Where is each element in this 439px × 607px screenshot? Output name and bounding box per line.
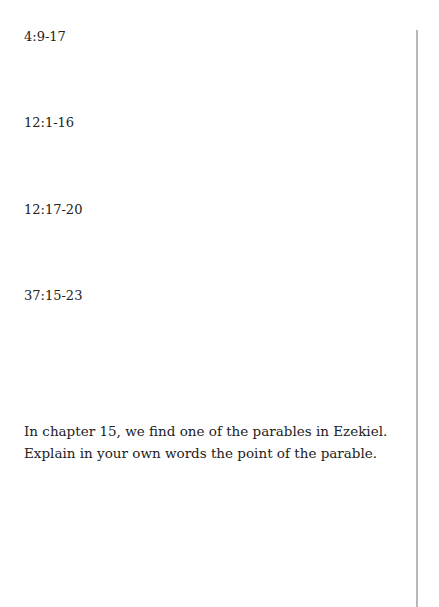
- scripture-reference: 37:15-23: [24, 288, 82, 303]
- scripture-reference: 12:1-16: [24, 115, 74, 130]
- scripture-reference: 4:9-17: [24, 29, 66, 44]
- scripture-reference: 12:17-20: [24, 202, 82, 217]
- question-paragraph: In chapter 15, we find one of the parabl…: [24, 420, 394, 464]
- margin-rule: [416, 30, 418, 607]
